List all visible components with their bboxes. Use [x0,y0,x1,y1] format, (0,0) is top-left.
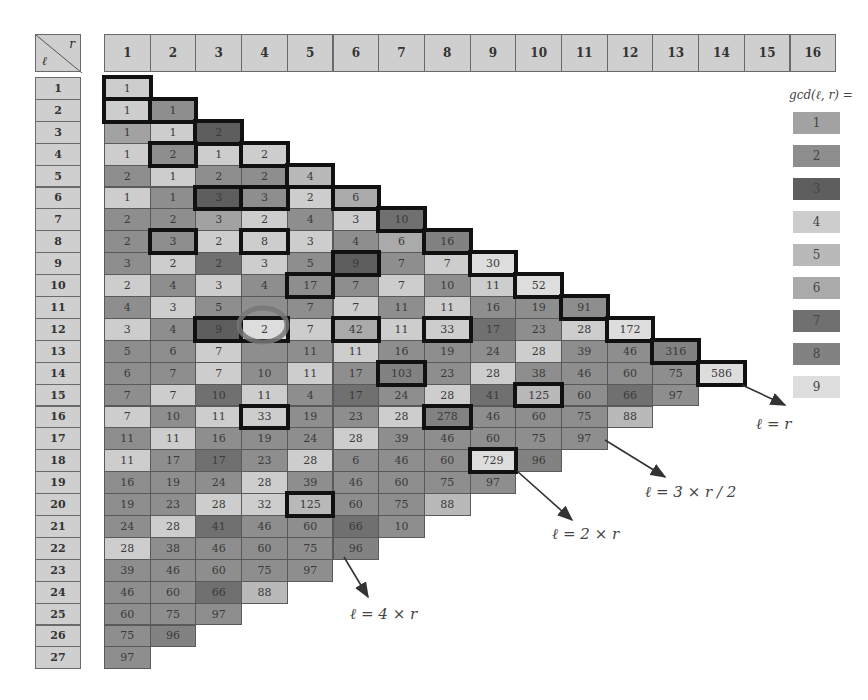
grid-cell: 75 [287,537,334,560]
grid-cell: 11 [470,274,517,297]
grid-cell: 103 [376,360,427,387]
grid-cell: 17 [333,362,380,385]
grid-cell: 7 [104,406,151,429]
grid-cell: 46 [607,340,654,363]
grid-cell: 23 [515,318,562,341]
row-header: 1 [35,77,81,100]
column-header: 16 [790,34,837,72]
grid-cell: 24 [287,427,334,450]
grid-cell: 586 [696,360,747,387]
grid-cell: 7 [287,296,334,319]
row-header: 26 [35,625,81,648]
grid-cell: 60 [287,515,334,538]
grid-cell: 33 [239,404,290,431]
l-axis-label: ℓ [42,54,47,69]
grid-cell: 4 [287,208,334,231]
grid-cell: 1 [104,121,151,144]
grid-cell: 19 [150,471,197,494]
grid-cell: 75 [104,625,151,648]
grid-cell: 16 [104,471,151,494]
legend-item: 4 [793,211,840,233]
grid-cell: 60 [424,449,471,472]
grid-cell: 16 [470,296,517,319]
grid-cell: 75 [378,493,425,516]
row-header: 20 [35,493,81,516]
grid-cell: 39 [378,427,425,450]
grid-cell: 60 [561,384,608,407]
grid-cell: 7 [333,274,380,297]
row-header: 9 [35,252,81,275]
grid-cell: 6 [104,362,151,385]
grid-cell: 7 [150,384,197,407]
grid-cell: 28 [561,318,608,341]
grid-cell: 24 [104,515,151,538]
grid-cell: 1 [104,143,151,166]
grid-cell: 39 [104,559,151,582]
grid-cell: 19 [287,406,334,429]
row-header: 19 [35,471,81,494]
grid-cell: 60 [104,603,151,626]
grid-cell: 7 [195,340,242,363]
grid-cell: 3 [287,230,334,253]
grid-cell: 3 [104,252,151,275]
grid-cell: 7 [195,362,242,385]
grid-cell: 2 [104,274,151,297]
grid-cell: 9 [193,316,244,343]
legend-item: 7 [793,310,840,332]
grid-cell: 2 [104,165,151,188]
legend-item: 2 [793,145,840,167]
grid-cell: 88 [607,406,654,429]
grid-cell: 278 [422,404,473,431]
legend-item: 8 [793,343,840,365]
grid-cell: 38 [150,537,197,560]
grid-cell: 172 [605,316,656,343]
grid-cell: 46 [104,581,151,604]
legend-item: 6 [793,277,840,299]
grid-cell: 729 [468,447,519,474]
row-header: 12 [35,318,81,341]
grid-cell: 66 [607,384,654,407]
grid-cell: 4 [241,274,288,297]
grid-cell: 19 [104,493,151,516]
column-header: 12 [607,34,654,72]
grid-cell: 97 [652,384,699,407]
grid-cell: 97 [104,646,151,669]
grid-cell: 60 [515,406,562,429]
grid-cell: 7 [378,252,425,275]
row-header: 27 [35,646,81,669]
grid-cell: 96 [150,625,197,648]
grid-cell: 75 [150,603,197,626]
grid-cell: 10 [195,384,242,407]
grid-cell: 11 [287,340,334,363]
grid-cell: 9 [331,250,382,277]
annotation-l-equals-4r: ℓ = 4 × r [350,605,417,623]
grid-cell: 96 [515,449,562,472]
column-header: 7 [378,34,425,72]
grid-cell: 23 [333,406,380,429]
grid-cell: 28 [241,471,288,494]
grid-cell: 3 [241,252,288,275]
grid-cell: 1 [102,97,153,124]
grid-cell: 46 [195,537,242,560]
grid-cell: 91 [559,294,610,321]
row-header: 10 [35,274,81,297]
annotation-l-equals-2r: ℓ = 2 × r [552,525,619,543]
grid-cell: 10 [241,362,288,385]
row-header: 14 [35,362,81,385]
grid-cell: 4 [285,163,336,190]
grid-cell: 28 [470,362,517,385]
grid-cell: 1 [150,165,197,188]
grid-cell: 10 [150,406,197,429]
column-header: 6 [333,34,380,72]
grid-cell: 23 [241,449,288,472]
grid-cell: 4 [150,318,197,341]
grid-cell: 41 [470,384,517,407]
grid-cell: 46 [333,471,380,494]
row-header: 24 [35,581,81,604]
grid-cell: 46 [561,362,608,385]
grid-cell: 3 [148,228,199,255]
row-header: 16 [35,406,81,429]
grid-cell: 316 [650,338,701,365]
row-header: 25 [35,603,81,626]
row-header: 21 [35,515,81,538]
